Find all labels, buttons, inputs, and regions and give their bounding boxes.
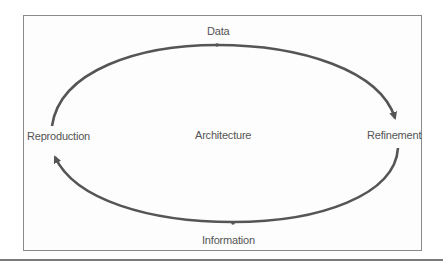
bottom-rule-divider — [0, 259, 443, 261]
node-label-reproduction: Reproduction — [27, 130, 90, 142]
bottom-arc-arrow — [55, 148, 398, 222]
center-label-architecture: Architecture — [195, 129, 251, 141]
node-label-data: Data — [207, 25, 229, 37]
node-label-information: Information — [202, 234, 255, 246]
data-node-dot — [215, 43, 219, 47]
node-label-refinement: Refinement — [367, 129, 421, 141]
top-arc-arrow — [52, 45, 395, 126]
information-node-dot — [231, 221, 235, 225]
